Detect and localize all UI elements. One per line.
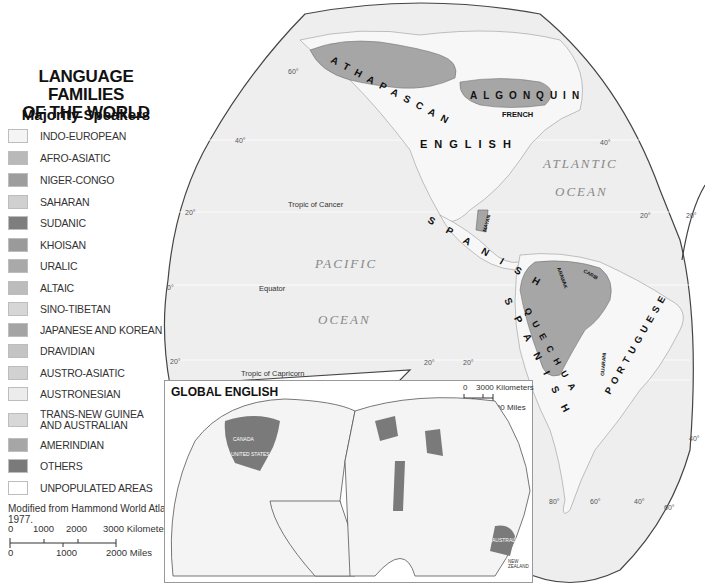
scale-km-1000: 1000 — [33, 523, 54, 534]
legend-label: NIGER-CONGO — [40, 175, 114, 186]
svg-text:20°: 20° — [463, 359, 474, 366]
legend-item-khoisan: KHOISAN — [8, 235, 86, 255]
swatch-japanese-korean — [8, 323, 28, 337]
legend-label: SAHARAN — [40, 197, 89, 208]
swatch-amerindian — [8, 438, 28, 452]
scale-km-0: 0 — [8, 523, 13, 534]
svg-text:20°: 20° — [686, 212, 697, 219]
legend-item-trans-new-guinea: TRANS-NEW GUINEA AND AUSTRALIAN — [8, 407, 160, 433]
legend-label: INDO-EUROPEAN — [40, 131, 126, 142]
label-atlantic: ATLANTIC — [542, 156, 618, 171]
legend-item-unpopulated: UNPOPULATED AREAS — [8, 478, 153, 498]
scale-bar-line — [8, 535, 178, 551]
legend-label: JAPANESE AND KOREAN — [40, 325, 162, 336]
right-lobe-edge — [682, 185, 705, 260]
legend-label: AMERINDIAN — [40, 440, 104, 451]
swatch-austronesian — [8, 387, 28, 401]
label-english: ENGLISH — [420, 138, 518, 150]
svg-text:40°: 40° — [235, 137, 246, 144]
svg-text:80°: 80° — [549, 498, 560, 505]
label-tropic-cancer: Tropic of Cancer — [288, 200, 344, 209]
svg-text:60°: 60° — [288, 68, 299, 75]
inset-label-new-zealand: NEW ZEALAND — [508, 559, 532, 569]
legend-label: AFRO-ASIATIC — [40, 153, 110, 164]
svg-text:40°: 40° — [689, 435, 700, 442]
svg-text:20°: 20° — [170, 358, 181, 365]
label-pacific-ocean: OCEAN — [318, 312, 371, 327]
swatch-uralic — [8, 259, 28, 273]
legend-label: URALIC — [40, 261, 77, 272]
inset-label-australia: AUSTRALIA — [492, 537, 520, 543]
label-atlantic-ocean: OCEAN — [555, 184, 608, 199]
label-french: FRENCH — [502, 110, 533, 119]
swatch-unpopulated — [8, 481, 28, 495]
swatch-sino-tibetan — [8, 302, 28, 316]
svg-text:20°: 20° — [185, 209, 196, 216]
legend-label: SINO-TIBETAN — [40, 304, 110, 315]
svg-text:60°: 60° — [590, 498, 601, 505]
legend-title-line1: LANGUAGE FAMILIES — [6, 68, 166, 104]
legend-scale-bar: 0 1000 2000 3000 Kilometers 0 1000 2000 … — [8, 523, 178, 563]
swatch-niger-congo — [8, 173, 28, 187]
legend-label: OTHERS — [40, 461, 83, 472]
swatch-khoisan — [8, 238, 28, 252]
inset-label-canada: CANADA — [233, 436, 254, 442]
legend-panel: LANGUAGE FAMILIES OF THE WORLD Majority … — [0, 0, 175, 587]
legend-item-others: OTHERS — [8, 456, 83, 476]
legend-item-japanese-korean: JAPANESE AND KOREAN — [8, 320, 162, 340]
swatch-afro-asiatic — [8, 151, 28, 165]
legend-item-uralic: URALIC — [8, 256, 77, 276]
legend-label: SUDANIC — [40, 218, 86, 229]
swatch-saharan — [8, 195, 28, 209]
swatch-altaic — [8, 281, 28, 295]
legend-item-dravidian: DRAVIDIAN — [8, 341, 95, 361]
scale-km-2000: 2000 — [66, 523, 87, 534]
legend-item-amerindian: AMERINDIAN — [8, 435, 104, 455]
legend-item-sino-tibetan: SINO-TIBETAN — [8, 299, 110, 319]
scale-mi-0: 0 — [8, 547, 13, 558]
legend-label: AUSTRO-ASIATIC — [40, 368, 125, 379]
legend-item-sudanic: SUDANIC — [8, 213, 86, 233]
swatch-austro-asiatic — [8, 366, 28, 380]
swatch-dravidian — [8, 344, 28, 358]
svg-text:20°: 20° — [424, 359, 435, 366]
legend-item-austro-asiatic: AUSTRO-ASIATIC — [8, 363, 125, 383]
label-algonquin: ALGONQUIN — [470, 90, 585, 101]
label-tropic-capricorn: Tropic of Capricorn — [241, 369, 305, 378]
legend-item-saharan: SAHARAN — [8, 192, 89, 212]
svg-text:40°: 40° — [600, 139, 611, 146]
scale-mi-1000: 1000 — [56, 547, 77, 558]
swatch-others — [8, 459, 28, 473]
swatch-indo-european — [8, 129, 28, 143]
swatch-trans-new-guinea — [8, 413, 28, 427]
legend-item-afro-asiatic: AFRO-ASIATIC — [8, 148, 110, 168]
legend-item-austronesian: AUSTRONESIAN — [8, 384, 120, 404]
source-note: Modified from Hammond World Atlas, 1977. — [8, 503, 175, 525]
global-english-inset: GLOBAL ENGLISH 0 3000 Kilometers 0 2000 … — [164, 380, 533, 583]
svg-text:40°: 40° — [634, 498, 645, 505]
inset-world-map — [165, 381, 532, 582]
svg-text:20°: 20° — [640, 212, 651, 219]
label-pacific: PACIFIC — [314, 256, 377, 271]
legend-item-niger-congo: NIGER-CONGO — [8, 170, 114, 190]
legend-label: DRAVIDIAN — [40, 346, 95, 357]
legend-item-altaic: ALTAIC — [8, 278, 74, 298]
legend-label: ALTAIC — [40, 283, 74, 294]
svg-text:0°: 0° — [167, 284, 174, 291]
legend-label: KHOISAN — [40, 240, 86, 251]
legend-label: TRANS-NEW GUINEA AND AUSTRALIAN — [40, 409, 160, 431]
inset-label-united-states: UNITED STATES — [231, 451, 270, 457]
label-equator: Equator — [259, 284, 286, 293]
scale-mi-2000: 2000 Miles — [106, 547, 152, 558]
legend-item-indo-european: INDO-EUROPEAN — [8, 126, 126, 146]
swatch-sudanic — [8, 216, 28, 230]
legend-subtitle: Majority Speakers — [6, 106, 166, 123]
legend-label: UNPOPULATED AREAS — [40, 483, 153, 494]
svg-text:60°: 60° — [664, 504, 675, 511]
legend-label: AUSTRONESIAN — [40, 389, 120, 400]
